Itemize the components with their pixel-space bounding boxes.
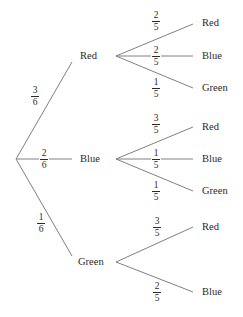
prob-blue-green: 1 5 (151, 180, 161, 202)
denominator: 5 (154, 160, 159, 170)
denominator: 5 (154, 57, 159, 67)
prob-blue-red: 3 5 (151, 113, 161, 135)
denominator: 5 (154, 22, 159, 32)
leaf-blue-green: Green (202, 185, 228, 197)
denominator: 6 (42, 160, 47, 170)
denominator: 5 (154, 89, 159, 99)
prob-root-blue: 2 6 (39, 148, 49, 170)
leaf-red-red: Red (202, 17, 219, 29)
numerator: 1 (154, 148, 159, 158)
leaf-blue-red: Red (202, 121, 219, 133)
prob-green-red: 3 5 (152, 216, 162, 238)
numerator: 1 (39, 212, 44, 222)
leaf-red-green: Green (202, 82, 228, 94)
prob-root-green: 1 6 (36, 212, 46, 234)
node-green: Green (78, 256, 104, 268)
node-red: Red (80, 50, 97, 62)
prob-red-red: 2 5 (151, 10, 161, 32)
leaf-green-red: Red (202, 221, 219, 233)
denominator: 6 (33, 97, 38, 107)
numerator: 3 (155, 216, 160, 226)
prob-red-green: 1 5 (151, 77, 161, 99)
prob-blue-blue: 1 5 (151, 148, 161, 170)
denominator: 6 (39, 224, 44, 234)
branch-root-red (16, 62, 72, 159)
leaf-red-blue: Blue (202, 50, 222, 62)
branch-root-green (16, 159, 72, 256)
numerator: 1 (154, 77, 159, 87)
denominator: 5 (154, 125, 159, 135)
numerator: 1 (154, 180, 159, 190)
denominator: 5 (155, 228, 160, 238)
numerator: 3 (154, 113, 159, 123)
denominator: 5 (154, 192, 159, 202)
numerator: 2 (154, 10, 159, 20)
node-blue: Blue (80, 153, 100, 165)
numerator: 2 (42, 148, 47, 158)
prob-green-blue: 2 5 (152, 281, 162, 303)
prob-red-blue: 2 5 (151, 45, 161, 67)
leaf-green-blue: Blue (202, 286, 222, 298)
numerator: 2 (154, 45, 159, 55)
numerator: 3 (33, 85, 38, 95)
prob-root-red: 3 6 (30, 85, 40, 107)
numerator: 2 (155, 281, 160, 291)
leaf-blue-blue: Blue (202, 153, 222, 165)
denominator: 5 (155, 293, 160, 303)
